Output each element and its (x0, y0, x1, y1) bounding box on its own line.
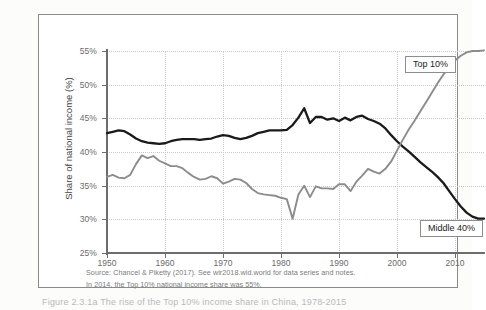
source-note-line-2: In 2014, the Top 10% national income sha… (86, 279, 486, 291)
series-line-top-10 (107, 50, 484, 218)
figure-caption: Figure 2.3.1a The rise of the Top 10% in… (42, 297, 462, 307)
source-note-line-1: Source: Chancel & Piketty (2017). See wi… (86, 267, 486, 279)
source-note: Source: Chancel & Piketty (2017). See wi… (86, 267, 486, 291)
chart-frame: Share of national income (%) 25%30%35%40… (38, 14, 458, 288)
plot-area: 25%30%35%40%45%50%55%1950196019701980199… (39, 15, 457, 287)
series-label-middle40: Middle 40% (420, 220, 483, 237)
series-label-top10: Top 10% (405, 56, 456, 73)
series-lines (39, 15, 459, 289)
